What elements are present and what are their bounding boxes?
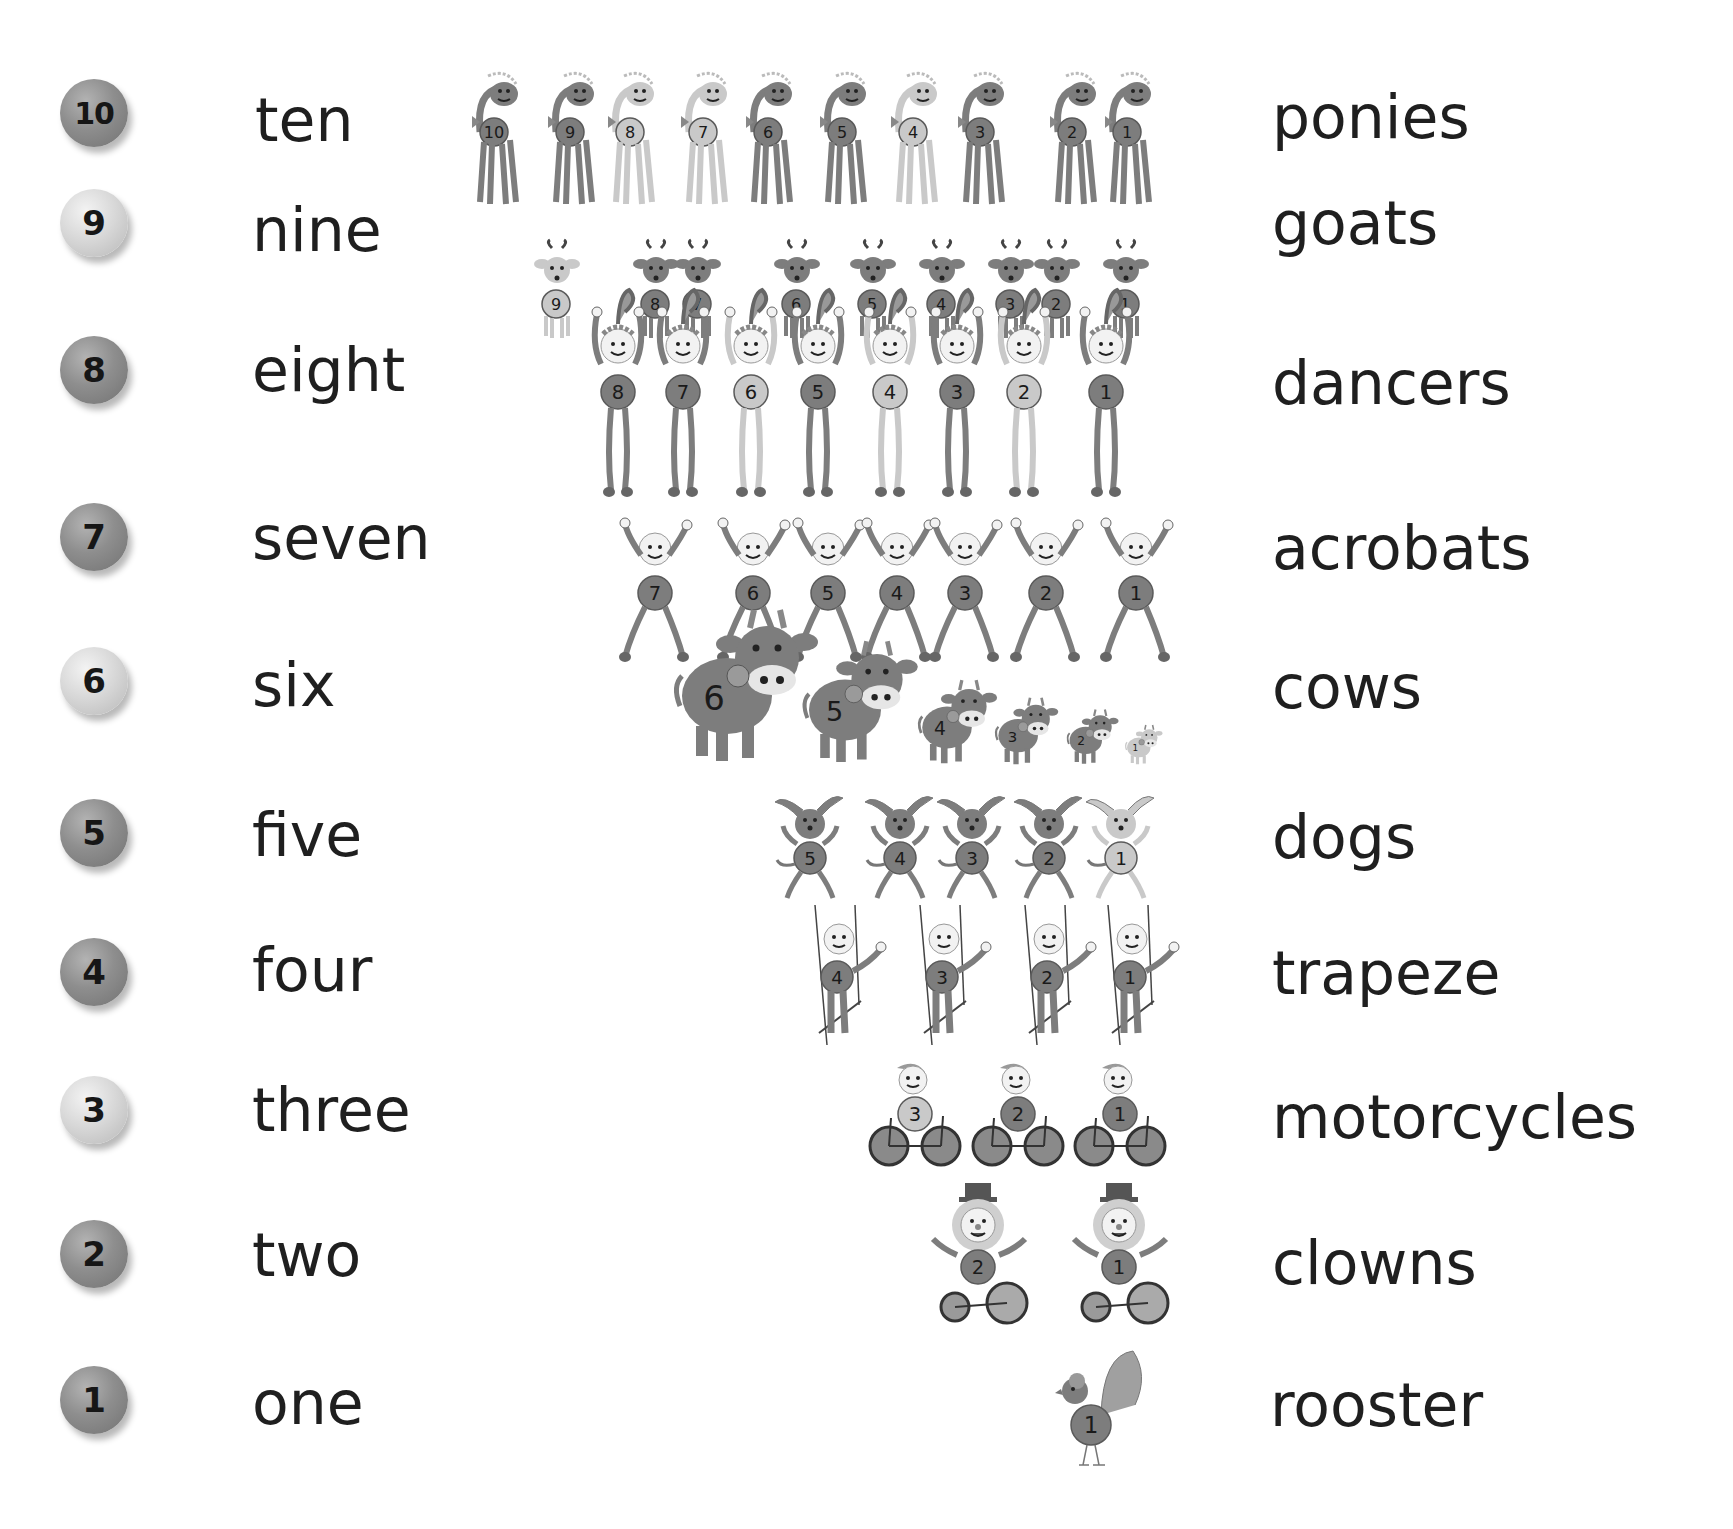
svg-text:7: 7 <box>649 582 661 605</box>
number-word-three: three <box>252 1080 411 1140</box>
noun-label-goats: goats <box>1272 193 1438 253</box>
noun-label-clowns: clowns <box>1272 1233 1477 1293</box>
svg-text:2: 2 <box>1041 967 1053 988</box>
svg-text:2: 2 <box>1018 381 1030 404</box>
number-word-two: two <box>252 1225 361 1285</box>
cow-figure-1: 1 <box>1125 724 1164 766</box>
number-ball-10: 10 <box>60 79 128 147</box>
counting-worksheet: 10 ten ponies 10 9 <box>0 0 1733 1529</box>
dog-figure-1: 1 <box>1084 788 1156 904</box>
noun-label-ponies: ponies <box>1272 87 1470 147</box>
number-ball-9: 9 <box>60 189 128 257</box>
pony-figure-1: 1 <box>1099 72 1163 208</box>
svg-text:5: 5 <box>826 696 843 727</box>
number-word-eight: eight <box>252 340 405 400</box>
svg-text:3: 3 <box>936 967 948 988</box>
dancer-figure-8: 8 <box>589 284 647 502</box>
dog-figure-2: 2 <box>1012 788 1084 904</box>
number-label: 1 <box>82 1380 106 1420</box>
svg-text:9: 9 <box>565 123 575 142</box>
svg-text:1: 1 <box>1130 582 1142 605</box>
number-word-six: six <box>252 655 335 715</box>
number-label: 9 <box>82 203 106 243</box>
rooster-figure-1: 1 <box>1053 1345 1149 1467</box>
motorcycle-figure-3: 3 <box>867 1058 963 1168</box>
number-label: 8 <box>82 350 106 390</box>
number-ball-4: 4 <box>60 938 128 1006</box>
svg-text:3: 3 <box>951 381 963 404</box>
dancer-figure-6: 6 <box>722 284 780 502</box>
svg-text:8: 8 <box>625 123 635 142</box>
cow-figure-2: 2 <box>1066 708 1120 766</box>
pony-figure-3: 3 <box>952 72 1016 208</box>
number-ball-7: 7 <box>60 503 128 571</box>
svg-text:3: 3 <box>959 582 971 605</box>
svg-text:1: 1 <box>1124 967 1136 988</box>
svg-text:7: 7 <box>698 123 708 142</box>
noun-label-rooster: rooster <box>1270 1375 1483 1435</box>
number-ball-1: 1 <box>60 1366 128 1434</box>
svg-text:1: 1 <box>1113 1256 1125 1279</box>
dancer-figure-1: 1 <box>1077 284 1135 502</box>
svg-text:4: 4 <box>891 582 903 605</box>
dog-figure-4: 4 <box>863 788 935 904</box>
pony-figure-9: 9 <box>542 72 606 208</box>
number-word-one: one <box>252 1373 364 1433</box>
trapeze-artist-figure-4: 4 <box>797 905 893 1049</box>
pony-figure-10: 10 <box>466 72 530 208</box>
svg-text:1: 1 <box>1114 1103 1126 1126</box>
svg-text:5: 5 <box>804 848 816 869</box>
number-ball-6: 6 <box>60 647 128 715</box>
svg-text:8: 8 <box>612 381 624 404</box>
number-word-nine: nine <box>252 200 382 260</box>
pony-figure-5: 5 <box>814 72 878 208</box>
trapeze-artist-figure-1: 1 <box>1090 905 1186 1049</box>
svg-text:2: 2 <box>972 1256 984 1279</box>
svg-text:1: 1 <box>1122 123 1132 142</box>
svg-text:4: 4 <box>894 848 906 869</box>
svg-text:6: 6 <box>745 381 757 404</box>
svg-text:4: 4 <box>908 123 918 142</box>
cow-figure-6: 6 <box>672 606 822 766</box>
acrobat-figure-2: 2 <box>1008 515 1084 665</box>
svg-text:9: 9 <box>551 295 561 314</box>
svg-text:1: 1 <box>1084 1412 1099 1438</box>
dog-figure-5: 5 <box>773 788 845 904</box>
cow-figure-3: 3 <box>994 696 1060 766</box>
svg-text:6: 6 <box>747 582 759 605</box>
trapeze-artist-figure-3: 3 <box>902 905 998 1049</box>
goat-figure-9: 9 <box>530 240 580 340</box>
svg-text:6: 6 <box>703 678 725 718</box>
svg-text:1: 1 <box>1133 743 1139 753</box>
svg-text:2: 2 <box>1040 582 1052 605</box>
cow-figure-4: 4 <box>917 678 1000 766</box>
motorcycle-figure-1: 1 <box>1072 1058 1168 1168</box>
number-word-ten: ten <box>255 90 353 150</box>
number-ball-2: 2 <box>60 1220 128 1288</box>
trapeze-artist-figure-2: 2 <box>1007 905 1103 1049</box>
acrobat-figure-3: 3 <box>927 515 1003 665</box>
noun-label-cows: cows <box>1272 657 1422 717</box>
number-ball-8: 8 <box>60 336 128 404</box>
svg-text:4: 4 <box>831 967 843 988</box>
noun-label-trapeze: trapeze <box>1272 943 1500 1003</box>
number-label: 4 <box>82 952 106 992</box>
svg-text:3: 3 <box>975 123 985 142</box>
svg-text:10: 10 <box>484 123 504 142</box>
svg-text:5: 5 <box>837 123 847 142</box>
clown-figure-2: 2 <box>925 1183 1035 1327</box>
svg-text:3: 3 <box>966 848 978 869</box>
number-label: 5 <box>82 813 106 853</box>
number-ball-3: 3 <box>60 1076 128 1144</box>
dancer-figure-5: 5 <box>789 284 847 502</box>
number-word-five: five <box>252 805 362 865</box>
dog-figure-3: 3 <box>935 788 1007 904</box>
svg-text:1: 1 <box>1115 848 1127 869</box>
pony-figure-7: 7 <box>675 72 739 208</box>
noun-label-motorcycles: motorcycles <box>1272 1087 1637 1147</box>
number-label: 6 <box>82 661 106 701</box>
svg-text:2: 2 <box>1077 735 1085 749</box>
svg-text:1: 1 <box>1100 381 1112 404</box>
noun-label-dogs: dogs <box>1272 807 1416 867</box>
number-label: 3 <box>82 1090 106 1130</box>
